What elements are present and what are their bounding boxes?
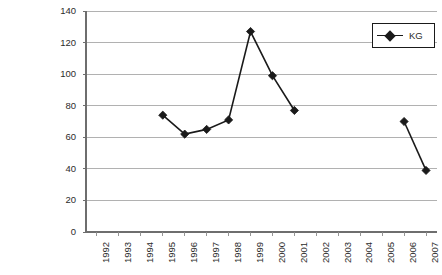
x-axis-tick-label-2007: 2007 (430, 242, 440, 263)
x-axis-tick-label-1999: 1999 (255, 242, 265, 263)
x-axis-tick-label-1995: 1995 (167, 242, 177, 263)
x-axis-tick-label-1997: 1997 (211, 242, 221, 263)
x-axis-tick-label-2003: 2003 (343, 242, 353, 263)
x-axis-tick-label-2002: 2002 (321, 242, 331, 263)
x-axis-tick-label-2006: 2006 (408, 242, 418, 263)
x-axis-tick-label-1996: 1996 (189, 242, 199, 263)
chart-legend: KG (372, 23, 435, 48)
diamond-marker-icon (377, 30, 403, 42)
x-axis-tick-label-2000: 2000 (277, 242, 287, 263)
chart-container: 140120100806040200 199219931994199519961… (0, 0, 442, 275)
x-axis-tick-label-2001: 2001 (299, 242, 309, 263)
x-axis-tick-label-2005: 2005 (386, 242, 396, 263)
x-axis-tick-label-1993: 1993 (123, 242, 133, 263)
x-axis-tick-label-1992: 1992 (101, 242, 111, 263)
legend-entry-kg: KG (373, 24, 434, 47)
legend-label: KG (409, 31, 423, 41)
x-axis-tick-label-1994: 1994 (145, 242, 155, 263)
x-axis-tick-label-1998: 1998 (233, 242, 243, 263)
x-axis-tick-label-2004: 2004 (364, 242, 374, 263)
